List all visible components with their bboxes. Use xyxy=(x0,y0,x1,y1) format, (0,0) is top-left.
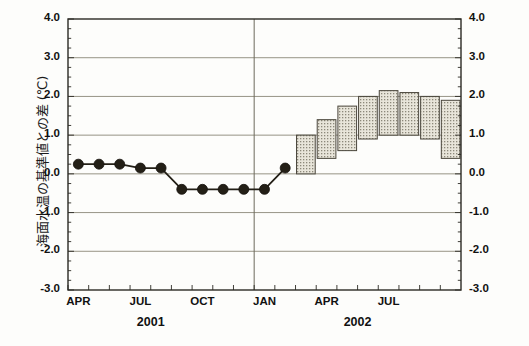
observed-data-point xyxy=(135,163,145,173)
forecast-bar xyxy=(400,93,419,136)
forecast-bar xyxy=(297,135,316,174)
observed-data-point xyxy=(280,163,290,173)
y-axis-tick-label: -3.0 xyxy=(26,282,60,294)
forecast-bar xyxy=(421,96,440,139)
y-axis-tick-label: 2.0 xyxy=(469,88,503,100)
x-axis-tick-label: APR xyxy=(53,295,103,307)
y-axis-tick-label: 1.0 xyxy=(469,127,503,139)
observed-data-point xyxy=(260,184,270,194)
x-axis-tick-label: APR xyxy=(302,295,352,307)
observed-data-point xyxy=(156,163,166,173)
observed-data-point xyxy=(177,184,187,194)
x-axis-tick-label: JUL xyxy=(115,295,165,307)
x-axis-year-label: 2002 xyxy=(328,315,388,329)
observed-data-point xyxy=(218,184,228,194)
x-axis-tick-label: JAN xyxy=(240,295,290,307)
observed-data-point xyxy=(239,184,249,194)
forecast-bar xyxy=(317,120,336,159)
y-axis-tick-label: 3.0 xyxy=(469,50,503,62)
observed-data-point xyxy=(115,159,125,169)
y-axis-tick-label: 0.0 xyxy=(469,166,503,178)
y-axis-tick-label: -2.0 xyxy=(469,243,503,255)
x-axis-tick-label: OCT xyxy=(177,295,227,307)
y-axis-tick-label: -2.0 xyxy=(26,243,60,255)
y-axis-tick-label: -1.0 xyxy=(26,205,60,217)
forecast-bar xyxy=(441,100,460,158)
y-axis-tick-label: 4.0 xyxy=(469,11,503,23)
observed-data-point xyxy=(197,184,207,194)
y-axis-tick-label: -3.0 xyxy=(469,282,503,294)
observed-data-point xyxy=(73,159,83,169)
forecast-bar xyxy=(359,96,378,139)
chart-root: 海面水温の基準値との差 (℃) 4.03.02.01.00.0-1.0-2.0-… xyxy=(0,0,529,346)
forecast-bar xyxy=(338,106,357,151)
y-axis-tick-label: 2.0 xyxy=(26,88,60,100)
observed-data-point xyxy=(94,159,104,169)
y-axis-tick-label: 0.0 xyxy=(26,166,60,178)
x-axis-tick-label: JUL xyxy=(364,295,414,307)
x-axis-year-label: 2001 xyxy=(121,315,181,329)
y-axis-tick-label: 4.0 xyxy=(26,11,60,23)
forecast-bar xyxy=(379,91,398,136)
y-axis-tick-label: 3.0 xyxy=(26,50,60,62)
y-axis-tick-label: -1.0 xyxy=(469,205,503,217)
y-axis-tick-label: 1.0 xyxy=(26,127,60,139)
plot-background xyxy=(68,19,461,290)
